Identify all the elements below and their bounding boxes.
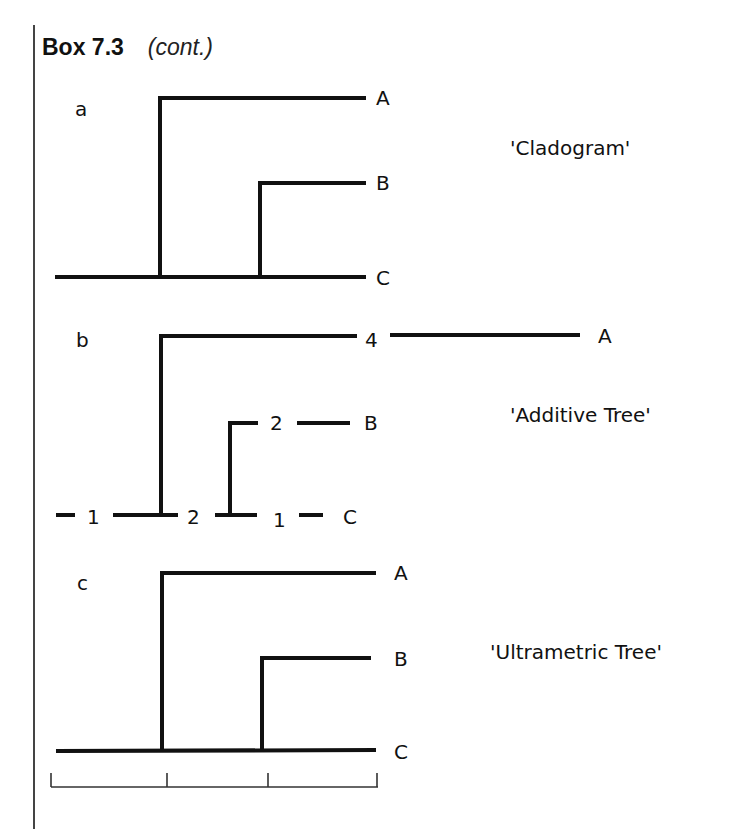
taxon-c-A: A <box>394 561 408 585</box>
tree-name-additive: 'Additive Tree' <box>510 403 651 427</box>
tree-name-cladogram: 'Cladogram' <box>510 136 630 160</box>
branch-length-to-B: 2 <box>270 411 283 435</box>
taxon-a-C: C <box>376 266 390 290</box>
panel-label-a: a <box>75 97 87 121</box>
tree-c-branches <box>56 573 376 751</box>
branch-length-internal: 2 <box>187 505 200 529</box>
taxon-b-C: C <box>343 505 357 529</box>
panel-label-b: b <box>76 328 89 352</box>
branch-length-to-A: 4 <box>365 328 378 352</box>
branch-length-root-stem: 1 <box>87 505 100 529</box>
panel-label-c: c <box>77 571 88 595</box>
tree-a-branches <box>55 98 366 277</box>
taxon-c-C: C <box>394 740 408 764</box>
scale-bar <box>51 773 378 787</box>
taxon-a-B: B <box>376 171 390 195</box>
branch-length-to-C: 1 <box>273 508 286 532</box>
taxon-a-A: A <box>376 86 390 110</box>
taxon-c-B: B <box>394 647 408 671</box>
tree-diagrams: a A B C 'Cladogram' b 4 A 2 B 'Additive … <box>0 0 740 829</box>
taxon-b-B: B <box>364 411 378 435</box>
taxon-b-A: A <box>598 324 612 348</box>
tree-name-ultrametric: 'Ultrametric Tree' <box>490 640 662 664</box>
tree-b-branches <box>56 335 580 515</box>
